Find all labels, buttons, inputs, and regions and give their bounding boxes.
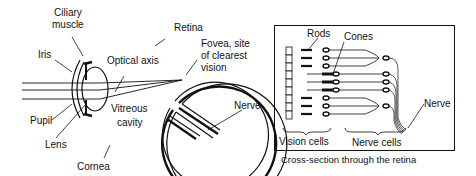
label-nerve-cells: Nerve cells [352, 137, 401, 148]
label-vitreous-line2: cavity [117, 117, 143, 128]
label-vitreous-line1: Vitreous [111, 103, 148, 114]
light-rays [22, 80, 182, 99]
vision-cell-stack [286, 47, 292, 119]
label-retina: Retina [174, 22, 203, 33]
label-fovea-line3: vision [201, 62, 227, 73]
label-vision-cells: Vision cells [279, 136, 329, 147]
label-cones: Cones [344, 31, 373, 42]
label-fovea-line1: Fovea, site [201, 38, 250, 49]
label-pupil: Pupil [30, 115, 52, 126]
label-ciliary-muscle-line1: Ciliary [54, 7, 82, 18]
caption-retina-cross-section: Cross-section through the retina [281, 154, 417, 165]
rods-bottom [301, 96, 389, 116]
label-iris: Iris [38, 49, 51, 60]
rods-top [301, 48, 389, 68]
label-optical-axis: Optical axis [107, 55, 159, 66]
cones [307, 72, 389, 92]
eyeball [72, 60, 287, 176]
label-lens: Lens [45, 139, 67, 150]
label-cornea: Cornea [77, 161, 110, 172]
label-ciliary-muscle-line2: muscle [52, 19, 84, 30]
label-rods: Rods [307, 28, 330, 39]
braces [283, 128, 406, 135]
label-retina-nerve: Nerve [424, 98, 451, 109]
nerve-bundle [389, 58, 406, 134]
label-nerve: Nerve [234, 100, 261, 111]
optic-nerve [167, 104, 220, 139]
eye-anatomy-diagram: Ciliary muscle Retina Iris Optical axis … [0, 0, 476, 176]
label-fovea-line2: of clearest [201, 50, 247, 61]
